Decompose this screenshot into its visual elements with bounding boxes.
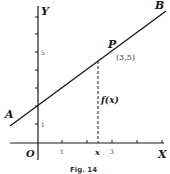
x-tick-label-3: 3 (110, 148, 114, 155)
y-tick-label-5: 5 (41, 49, 45, 56)
line-start-label: A (4, 108, 14, 121)
y-tick-label-1: 1 (41, 121, 45, 128)
point-coords: (3,5) (116, 53, 135, 62)
line-end-label: B (154, 0, 164, 12)
origin-label: O (26, 148, 35, 159)
point-label: P (107, 38, 117, 51)
y-axis-label: Y (41, 5, 50, 18)
x-tick-label-1: 1 (60, 148, 64, 155)
x-axis-label: X (157, 148, 167, 161)
figure-caption: Fig. 14 (70, 166, 97, 174)
line-ab (10, 11, 166, 126)
x-var-label: x (94, 147, 100, 157)
coordinate-diagram: Y X O A B P (3,5) f(x) 5 1 1 x 3 Fig. 14 (0, 0, 170, 174)
ordinate-label: f(x) (100, 95, 119, 105)
